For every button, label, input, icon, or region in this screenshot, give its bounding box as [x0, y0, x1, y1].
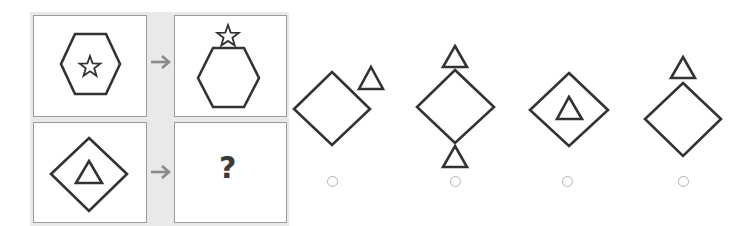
option-b-bottom-triangle-icon: [443, 146, 467, 167]
option-b-radio[interactable]: [450, 176, 461, 187]
option-c-diamond-icon: [530, 73, 608, 146]
option-d-diamond-icon: [645, 83, 721, 156]
figures-canvas: [0, 0, 753, 226]
option-b-top-triangle-icon: [443, 46, 467, 67]
diamond-icon: [51, 138, 127, 211]
star-icon: [80, 56, 101, 76]
option-d-triangle-icon: [671, 57, 695, 78]
star-icon: [217, 25, 239, 46]
option-b-diamond-icon: [417, 70, 494, 143]
triangle-icon: [76, 161, 102, 183]
option-a-triangle-icon: [359, 67, 383, 89]
option-a-radio[interactable]: [327, 176, 338, 187]
arrow-right-icon: [151, 166, 169, 178]
option-c-radio[interactable]: [562, 176, 573, 187]
hexagon-icon: [198, 48, 259, 107]
hexagon-icon: [61, 34, 120, 94]
option-c-triangle-icon: [557, 97, 582, 119]
option-d-radio[interactable]: [678, 176, 689, 187]
arrow-right-icon: [151, 56, 169, 68]
option-a-diamond-icon: [294, 72, 370, 145]
